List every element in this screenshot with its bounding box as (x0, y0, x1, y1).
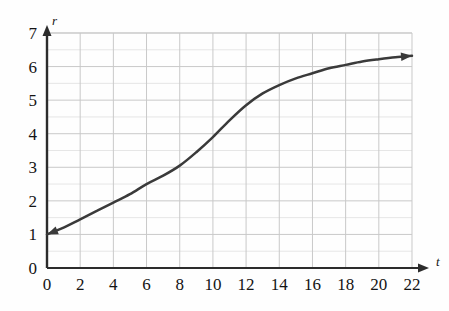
y-axis-arrowhead (43, 25, 52, 36)
curve-path (47, 56, 412, 235)
data-curve (47, 53, 412, 235)
y-axis-label: r (52, 13, 58, 28)
x-tick-label: 22 (404, 275, 421, 294)
x-tick-labels: 0246810121416182022 (43, 275, 421, 294)
y-tick-label: 5 (29, 91, 38, 110)
y-tick-label: 0 (29, 259, 38, 278)
y-tick-label: 3 (29, 158, 38, 177)
curve-start-arrowhead (47, 226, 59, 234)
x-tick-label: 18 (337, 275, 354, 294)
x-tick-label: 4 (109, 275, 118, 294)
chart-canvas: 0246810121416182022 01234567 t r (0, 0, 449, 311)
y-tick-label: 2 (29, 192, 38, 211)
y-tick-label: 4 (29, 125, 38, 144)
y-tick-labels: 01234567 (29, 24, 38, 278)
graph-figure: 0246810121416182022 01234567 t r (0, 0, 449, 311)
x-tick-label: 12 (238, 275, 255, 294)
grid-minor-horizontal (47, 50, 412, 251)
x-tick-label: 10 (204, 275, 221, 294)
x-tick-label: 16 (304, 275, 321, 294)
x-tick-label: 2 (76, 275, 85, 294)
x-tick-label: 20 (370, 275, 387, 294)
x-tick-label: 0 (43, 275, 52, 294)
y-tick-label: 7 (29, 24, 38, 43)
x-axis-arrowhead (418, 264, 429, 273)
x-tick-label: 6 (142, 275, 151, 294)
x-tick-label: 8 (175, 275, 184, 294)
x-axis (47, 264, 429, 273)
x-tick-label: 14 (271, 275, 289, 294)
x-axis-label: t (436, 254, 440, 269)
y-tick-label: 1 (29, 225, 38, 244)
y-tick-label: 6 (29, 58, 38, 77)
